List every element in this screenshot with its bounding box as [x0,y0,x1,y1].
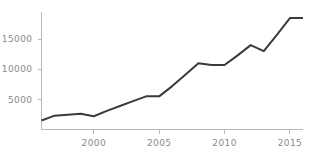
chart-canvas: 50001000015000 2000200520102015 [0,0,311,160]
data-series-group [42,18,304,120]
y-tick-label: 15000 [2,34,33,44]
y-tick-group: 50001000015000 [2,34,42,104]
x-tick-label: 2005 [147,138,172,148]
series-line-series-1 [42,18,304,120]
x-tick-label: 2000 [82,138,107,148]
y-axis: 50001000015000 [2,12,42,130]
x-tick-label: 2010 [212,138,237,148]
x-axis: 2000200520102015 [42,130,304,148]
y-tick-label: 5000 [8,95,33,105]
line-chart: 50001000015000 2000200520102015 [0,0,311,160]
x-tick-group: 2000200520102015 [82,130,303,148]
x-tick-label: 2015 [278,138,303,148]
y-tick-label: 10000 [2,64,33,74]
